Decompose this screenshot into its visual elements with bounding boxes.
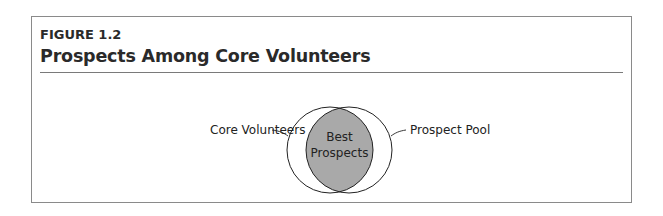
venn-diagram: Core Volunteers Prospect Pool Best Prosp… [0,0,663,216]
prospect-pool-label: Prospect Pool [410,123,490,137]
intersection-label-line1: Best [326,130,353,144]
core-volunteers-label: Core Volunteers [210,123,305,137]
intersection-label-line2: Prospects [311,146,369,160]
prospect-pool-pointer [391,130,406,136]
